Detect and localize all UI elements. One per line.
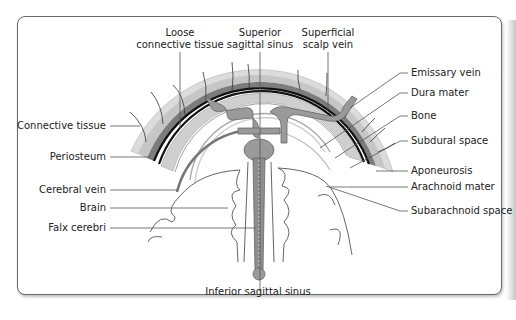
label-emissary-vein: Emissary vein xyxy=(411,67,481,79)
right-hemisphere-gyri xyxy=(278,168,352,262)
label-arachnoid-mater: Arachnoid mater xyxy=(411,181,495,193)
label-line-2: connective tissue xyxy=(136,39,224,51)
connecting-vein xyxy=(238,128,280,134)
label-line-1: Superior xyxy=(227,27,293,39)
label-dura-mater: Dura mater xyxy=(411,87,469,99)
left-hemisphere-gyri xyxy=(148,170,240,262)
falx-right-wall xyxy=(271,162,274,262)
label-line-1: Superficial xyxy=(302,27,355,39)
label-inferior-sagittal-sinus: Inferior sagittal sinus xyxy=(205,286,311,298)
label-aponeurosis: Aponeurosis xyxy=(411,165,472,177)
label-bone: Bone xyxy=(411,110,436,122)
label-subarachnoid-space: Subarachnoid space xyxy=(411,205,512,217)
label-periosteum: Periosteum xyxy=(50,151,106,163)
label-connective-tissue: Connective tissue xyxy=(17,120,106,132)
label-falx-cerebri: Falx cerebri xyxy=(48,222,106,234)
falx-left-wall xyxy=(244,162,248,262)
label-subdural-space: Subdural space xyxy=(411,135,488,147)
inferior-sagittal-sinus xyxy=(253,268,265,280)
label-superior-sagittal-sinus: Superior sagittal sinus xyxy=(227,27,293,51)
cerebral-vein-right xyxy=(268,130,330,170)
brain-outlines xyxy=(148,162,352,262)
label-loose-connective-tissue: Loose connective tissue xyxy=(136,27,224,51)
label-brain: Brain xyxy=(80,202,106,214)
label-line-2: sagittal sinus xyxy=(227,39,293,51)
label-cerebral-vein: Cerebral vein xyxy=(39,184,106,196)
label-line-2: scalp vein xyxy=(302,39,355,51)
label-line-1: Loose xyxy=(136,27,224,39)
label-superficial-scalp-vein: Superficial scalp vein xyxy=(302,27,355,51)
